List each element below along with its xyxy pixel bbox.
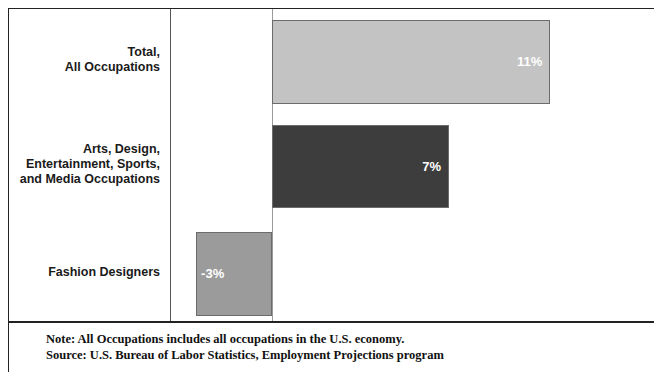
category-label-fashion-designers: Fashion Designers [0,265,160,280]
chart-footnotes: Note: All Occupations includes all occup… [46,331,444,363]
note-text: Note: All Occupations includes all occup… [46,331,444,347]
category-label-total-all-occupations: Total, All Occupations [0,45,160,75]
bar-value-label-total-all-occupations: 11% [508,55,542,68]
bar-value-label-fashion-designers: -3% [201,267,241,280]
plot-area: Total, All Occupations Arts, Design, Ent… [0,0,654,321]
chart-figure: Total, All Occupations Arts, Design, Ent… [0,0,654,380]
category-label-arts-design-entertainment: Arts, Design, Entertainment, Sports, and… [0,142,160,187]
plot-bottom-rule [8,321,654,323]
bar-value-label-arts-design-entertainment: 7% [407,160,441,173]
source-text: Source: U.S. Bureau of Labor Statistics,… [46,347,444,363]
